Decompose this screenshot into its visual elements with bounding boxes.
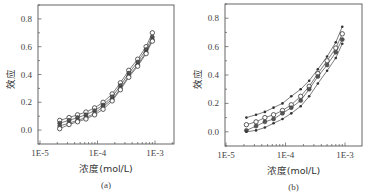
- data-point-marker: [264, 126, 267, 129]
- data-point-marker: [110, 99, 114, 103]
- x-tick-label: 1E-4: [277, 150, 295, 160]
- y-tick-label: 0.2: [21, 97, 32, 107]
- data-point-marker: [299, 99, 303, 103]
- data-point-marker: [317, 68, 320, 71]
- data-point-marker: [67, 122, 71, 126]
- data-point-marker: [341, 25, 344, 28]
- data-point-marker: [307, 87, 311, 91]
- data-point-marker: [245, 116, 248, 119]
- y-tick-label: 0.0: [21, 125, 33, 135]
- chart-panel-a: 0.00.20.40.60.81E-51E-41E-3浓度(mol/L)效应(a…: [0, 0, 183, 194]
- data-point-marker: [118, 88, 122, 92]
- data-point-marker: [150, 39, 154, 43]
- data-point-marker: [264, 111, 267, 114]
- data-point-marker: [290, 95, 293, 98]
- data-point-marker: [281, 102, 284, 105]
- y-axis-title: 效应: [192, 69, 203, 89]
- data-point-marker: [290, 112, 293, 115]
- x-tick-label: 1E-3: [146, 148, 164, 158]
- y-tick-label: 0.8: [208, 13, 220, 23]
- data-point-marker: [326, 55, 329, 58]
- x-axis-title: 浓度(mol/L): [267, 165, 321, 176]
- data-point-marker: [263, 120, 267, 124]
- x-tick-label: 1E-4: [89, 148, 107, 158]
- data-point-marker: [289, 106, 293, 110]
- data-series: [245, 25, 344, 118]
- y-tick-label: 0.0: [208, 127, 220, 137]
- data-series: [244, 32, 344, 127]
- data-point-marker: [244, 123, 248, 127]
- data-point-marker: [92, 113, 96, 117]
- data-point-marker: [298, 94, 302, 98]
- x-axis-title: 浓度(mol/L): [79, 163, 133, 174]
- data-point-marker: [299, 105, 302, 108]
- data-series: [57, 31, 154, 123]
- data-point-marker: [101, 107, 105, 111]
- data-point-marker: [340, 38, 344, 42]
- panel-caption: (a): [101, 180, 111, 190]
- data-point-marker: [255, 113, 258, 116]
- data-series: [58, 35, 155, 125]
- y-axis-title: 效应: [5, 69, 16, 89]
- data-series: [57, 39, 154, 131]
- data-point-marker: [341, 42, 344, 45]
- data-point-marker: [254, 120, 258, 124]
- data-point-marker: [57, 127, 61, 131]
- data-point-marker: [334, 57, 337, 60]
- y-tick-label: 0.6: [208, 42, 220, 52]
- x-tick-label: 1E-5: [217, 150, 235, 160]
- data-point-marker: [326, 69, 329, 72]
- data-point-marker: [254, 124, 258, 128]
- data-point-marker: [135, 64, 139, 68]
- y-tick-label: 0.4: [208, 70, 220, 80]
- data-point-marker: [334, 50, 338, 54]
- y-tick-label: 0.2: [208, 98, 219, 108]
- data-point-marker: [272, 117, 276, 121]
- data-point-marker: [316, 74, 320, 78]
- data-point-marker: [272, 106, 275, 109]
- data-point-marker: [317, 82, 320, 85]
- x-tick-label: 1E-3: [336, 150, 354, 160]
- data-point-marker: [325, 63, 329, 67]
- data-point-marker: [127, 75, 131, 79]
- data-point-marker: [280, 111, 284, 115]
- data-point-marker: [255, 129, 258, 132]
- data-point-marker: [84, 117, 88, 121]
- data-point-marker: [334, 41, 337, 44]
- data-point-marker: [272, 122, 275, 125]
- data-point-marker: [263, 115, 267, 119]
- data-point-marker: [245, 131, 248, 134]
- data-point-marker: [271, 113, 275, 117]
- y-tick-label: 0.4: [21, 70, 33, 80]
- y-tick-label: 0.8: [21, 14, 33, 24]
- chart-panel-b: 0.00.20.40.60.81E-51E-41E-3浓度(mol/L)效应(b…: [183, 0, 366, 194]
- data-point-marker: [144, 51, 148, 55]
- chart-b-canvas: 0.00.20.40.60.81E-51E-41E-3浓度(mol/L)效应(b…: [183, 0, 366, 194]
- y-tick-label: 0.6: [21, 42, 33, 52]
- data-point-marker: [281, 118, 284, 121]
- x-tick-label: 1E-5: [31, 148, 49, 158]
- data-series: [244, 38, 344, 133]
- data-point-marker: [308, 79, 311, 82]
- data-series: [245, 42, 344, 133]
- data-point-marker: [75, 120, 79, 124]
- data-point-marker: [308, 95, 311, 98]
- data-point-marker: [150, 31, 154, 35]
- data-point-marker: [299, 88, 302, 91]
- data-point-marker: [340, 32, 344, 36]
- data-series: [58, 38, 155, 128]
- panel-caption: (b): [288, 182, 299, 192]
- chart-a-canvas: 0.00.20.40.60.81E-51E-41E-3浓度(mol/L)效应(a…: [0, 0, 183, 194]
